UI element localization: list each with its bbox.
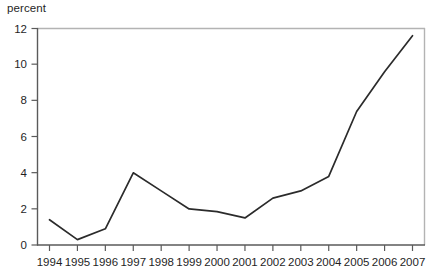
chart-plot-area: 0 2 4 6 8 10 12 199419951996199719981999… bbox=[0, 0, 438, 275]
x-tick-label: 1999 bbox=[176, 256, 202, 268]
x-tick-label: 2006 bbox=[372, 256, 398, 268]
y-tick-label: 8 bbox=[21, 94, 27, 106]
x-tick-label: 2000 bbox=[204, 256, 230, 268]
x-tick-label: 1994 bbox=[37, 256, 63, 268]
y-tick-label: 12 bbox=[14, 23, 27, 35]
y-tick-label: 10 bbox=[14, 58, 27, 70]
line-chart-figure: percent 0 2 4 6 8 10 12 1994199519 bbox=[0, 0, 438, 275]
y-tick-label: 2 bbox=[21, 203, 27, 215]
x-tick-label: 2005 bbox=[344, 256, 370, 268]
x-tick-label: 1995 bbox=[65, 256, 91, 268]
x-tick-label: 1998 bbox=[148, 256, 174, 268]
plot-frame bbox=[37, 28, 425, 246]
x-tick-label: 1997 bbox=[120, 256, 146, 268]
y-tick-label: 0 bbox=[21, 239, 27, 251]
x-tick-label: 2002 bbox=[260, 256, 286, 268]
y-axis-ticks bbox=[32, 29, 38, 246]
x-axis-ticks bbox=[50, 245, 413, 251]
y-axis-tick-labels: 0 2 4 6 8 10 12 bbox=[14, 23, 27, 252]
data-series-line bbox=[50, 36, 413, 240]
x-tick-label: 2001 bbox=[232, 256, 258, 268]
y-tick-label: 4 bbox=[21, 167, 28, 179]
x-axis-tick-labels: 1994199519961997199819992000200120022003… bbox=[37, 256, 426, 268]
x-tick-label: 2007 bbox=[400, 256, 426, 268]
x-tick-label: 2003 bbox=[288, 256, 314, 268]
y-tick-label: 6 bbox=[21, 131, 27, 143]
x-tick-label: 2004 bbox=[316, 256, 342, 268]
x-tick-label: 1996 bbox=[93, 256, 119, 268]
